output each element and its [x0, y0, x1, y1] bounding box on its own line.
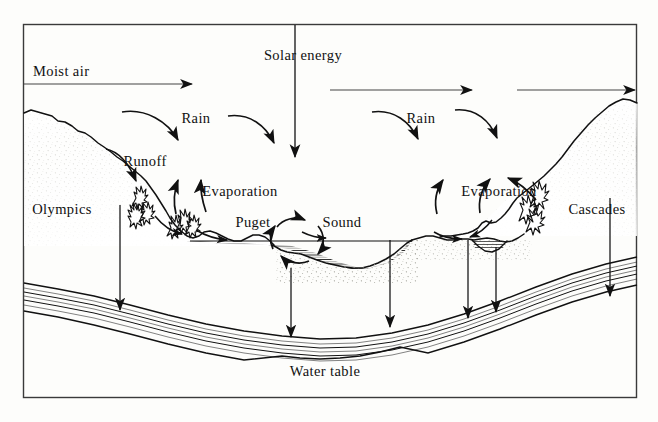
label-evaporation-left: Evaporation	[202, 183, 278, 199]
evaporation-arrow-3	[436, 180, 443, 214]
hydrologic-cycle-figure: Solar energy Moist air Rain Rain Runoff …	[0, 0, 658, 422]
olympics-mountain	[20, 100, 290, 260]
label-water-table: Water table	[290, 363, 360, 379]
rain-arrow-left	[122, 111, 178, 140]
label-rain-left: Rain	[182, 110, 211, 126]
rain-arrow-right-2	[455, 110, 497, 138]
label-solar-energy: Solar energy	[264, 47, 343, 63]
label-runoff: Runoff	[123, 153, 166, 169]
label-sound: Sound	[322, 214, 361, 230]
label-olympics: Olympics	[32, 201, 92, 217]
central-valley-floor	[260, 234, 532, 290]
label-cascades: Cascades	[568, 201, 625, 217]
aquifer-bottom-line	[24, 285, 637, 360]
label-rain-right: Rain	[407, 110, 436, 126]
label-evaporation-right: Evaporation	[461, 183, 537, 199]
evaporation-arrow-1	[174, 180, 178, 214]
rain-arrow-left-2	[228, 116, 274, 143]
cascades-mountain	[420, 92, 650, 247]
diagram-canvas: Solar energy Moist air Rain Rain Runoff …	[0, 0, 658, 422]
label-moist-air: Moist air	[33, 63, 89, 79]
label-puget: Puget	[235, 214, 270, 230]
